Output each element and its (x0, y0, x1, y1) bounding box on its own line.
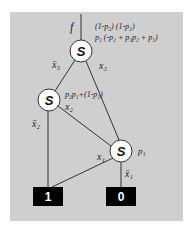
root-annotation-line2: p₁ (-p₂ + p₃p₂ + p₃) (94, 33, 158, 42)
edge-n3-t1 (52, 158, 113, 187)
bdd-diagram: f (1-p₃) (1-p₂) p₁ (-p₂ + p₃p₂ + p₃) S x… (0, 0, 191, 231)
node-n3: S (110, 140, 132, 162)
root-label: f (70, 20, 75, 34)
node-n2: S (38, 89, 60, 111)
root-annotation-line1: (1-p₃) (1-p₂) (95, 22, 135, 31)
node-n3-label: S (117, 144, 126, 159)
terminal-zero-label: 0 (118, 190, 125, 204)
node-n3-neg-label: x̄₁ (124, 168, 133, 179)
node-n1-label: S (77, 44, 86, 59)
terminal-zero: 0 (106, 187, 136, 206)
node-n1: S (70, 40, 92, 62)
node-n3-pos-label: x₁ (96, 151, 105, 162)
node-n2-neg-label: x̄₂ (31, 118, 40, 129)
node-n1-neg-label: x̄₃ (51, 59, 60, 70)
node-n3-annotation: p₁ (137, 146, 146, 156)
node-n2-label: S (45, 93, 54, 108)
edge-n1-n3 (86, 61, 119, 140)
edge-n2-n3 (58, 106, 111, 146)
terminal-one: 1 (33, 187, 63, 206)
node-n2-pos-label: x₂ (64, 101, 73, 112)
node-n1-pos-label: x₃ (98, 60, 107, 71)
node-n2-annotation: p₂p₁+(1-p₂) (64, 90, 103, 99)
terminal-one-label: 1 (45, 190, 52, 204)
